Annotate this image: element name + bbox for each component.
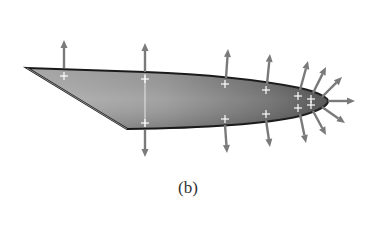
field-arrow-shaft xyxy=(267,62,269,84)
conductor-body xyxy=(27,68,328,129)
field-arrow-shaft xyxy=(300,114,304,135)
arrowhead-icon xyxy=(142,43,149,51)
field-arrow-shaft xyxy=(322,83,336,97)
arrowhead-icon xyxy=(61,40,68,48)
field-arrow-shaft xyxy=(266,120,269,139)
arrowhead-icon xyxy=(223,145,230,153)
arrowhead-icon xyxy=(301,134,308,143)
arrowhead-icon xyxy=(266,54,273,62)
arrowhead-icon xyxy=(142,149,149,157)
field-arrow-shaft xyxy=(313,111,322,128)
field-arrow-shaft xyxy=(313,74,322,93)
field-arrow-shaft xyxy=(300,69,306,90)
field-arrow-shaft xyxy=(226,57,227,78)
field-arrow-shaft xyxy=(322,107,338,118)
field-arrow-shaft xyxy=(225,125,226,145)
arrowhead-icon xyxy=(347,98,355,105)
figure-caption: (b) xyxy=(0,178,376,198)
arrowhead-icon xyxy=(224,49,231,57)
arrowhead-icon xyxy=(302,61,309,70)
arrowhead-icon xyxy=(265,139,272,147)
